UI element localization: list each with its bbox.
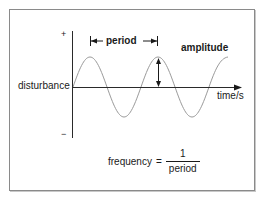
frequency-formula: frequency = 1 period xyxy=(108,148,200,175)
formula-lhs: frequency xyxy=(108,156,152,167)
formula-fraction: 1 period xyxy=(166,148,200,175)
y-axis-label: disturbance xyxy=(18,80,70,92)
amplitude-down-arrowhead-icon xyxy=(156,81,161,87)
formula-equals: = xyxy=(156,156,162,167)
period-right-arrowhead-icon xyxy=(151,39,157,44)
formula-denominator: period xyxy=(169,162,197,175)
x-axis-label: time/s xyxy=(217,90,244,102)
amplitude-label: amplitude xyxy=(181,42,228,54)
period-label: period xyxy=(106,35,137,47)
y-axis-positive-label: + xyxy=(61,28,66,40)
amplitude-arrow xyxy=(156,58,161,87)
formula-numerator: 1 xyxy=(166,148,200,162)
amplitude-up-arrowhead-icon xyxy=(156,58,161,64)
y-axis-negative-label: − xyxy=(61,128,66,140)
period-left-arrowhead-icon xyxy=(91,39,97,44)
